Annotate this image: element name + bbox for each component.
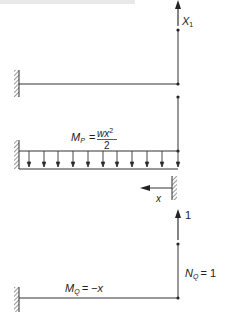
diagram-1-released-structure: X1: [14, 0, 193, 97]
structural-diagram: X1 MP = wx2 2: [0, 0, 234, 316]
distributed-load-arrows: [27, 151, 179, 167]
arrow-left-icon: [140, 185, 150, 191]
fraction-denominator: 2: [104, 140, 110, 151]
unit-force-label: 1: [185, 209, 191, 221]
arrow-up-icon: [175, 209, 181, 218]
equals-sign: =: [89, 131, 95, 143]
fixed-support-wall: [14, 287, 19, 312]
diagram-2-primary-loading: MP = wx2 2 x: [14, 95, 180, 204]
coordinate-x-label: x: [155, 193, 162, 204]
fraction-numerator: wx2: [97, 127, 113, 139]
primary-moment-label: MP: [71, 131, 85, 144]
release-dot: [176, 28, 179, 31]
unit-moment-label: MQ= −x: [65, 282, 104, 296]
fixed-support-wall: [14, 140, 19, 169]
diagram-3-unit-load: 1 MQ= −x NQ= 1: [14, 209, 216, 312]
redundant-force-label: X1: [181, 15, 193, 28]
partial-header-text: [0, 0, 135, 4]
arrow-up-icon: [175, 0, 181, 9]
fixed-support-wall: [14, 70, 19, 97]
joint-dot: [176, 82, 179, 85]
right-fixed-support-wall: [172, 176, 177, 200]
axial-force-label: NQ= 1: [185, 267, 216, 281]
